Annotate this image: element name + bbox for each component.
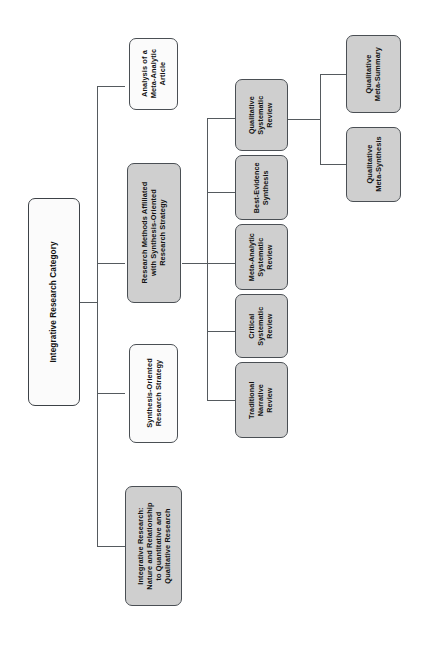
node-label-line: Research Strategy (154, 359, 163, 429)
node-label: Qualitative Meta-Summary (364, 47, 382, 101)
connector-level3-stub-5 (207, 118, 235, 119)
node-label-line: Synthesis (262, 162, 271, 213)
connector-level3-stub-4 (207, 192, 235, 193)
node-synthesis-oriented-research-strategy[interactable]: Synthesis-Oriented Research Strategy (129, 344, 178, 443)
node-label-line: Review (266, 301, 275, 352)
connector-level3-trunk (207, 118, 208, 401)
node-label-line: Review (266, 232, 275, 283)
node-label-line: Meta-Analytic (149, 49, 158, 98)
node-label-line: Synthesis-Oriented (144, 359, 153, 429)
node-label: Synthesis-Oriented Research Strategy (144, 359, 162, 429)
node-label-line: Nature and Relationship (144, 502, 153, 589)
node-label-line: to Quantitative and (154, 502, 163, 589)
node-research-methods-affiliated[interactable]: Research Methods Affiliated with Synthes… (127, 163, 181, 303)
node-label: Traditional Narrative Review (248, 375, 274, 426)
node-critical-systematic-review[interactable]: Critical Systematic Review (235, 294, 288, 358)
node-label: Integrative Research: Nature and Relatio… (135, 502, 171, 589)
node-label-line: Review (266, 90, 275, 141)
connector-level4-stub-1 (320, 164, 346, 165)
node-label-line: Research Methods Affiliated (140, 182, 149, 284)
node-integrative-research-category[interactable]: Integrative Research Category (28, 198, 80, 406)
connector-level3-feed (182, 263, 208, 264)
node-meta-analytic-systematic-review[interactable]: Meta-Analytic Systematic Review (235, 224, 288, 290)
node-qualitative-meta-summary[interactable]: Qualitative Meta-Summary (346, 35, 401, 113)
node-label: Best-Evidence Synthesis (253, 162, 271, 213)
node-label: Critical Systematic Review (248, 301, 274, 352)
connector-root-stub (80, 302, 98, 303)
node-label: Meta-Analytic Systematic Review (248, 232, 274, 283)
node-label-line: Qualitative (364, 137, 373, 193)
node-label: Analysis of a Meta-Analytic Article (140, 49, 167, 98)
node-label: Integrative Research Category (49, 241, 59, 362)
node-qualitative-systematic-review[interactable]: Qualitative Systematic Review (235, 79, 288, 151)
node-label-line: Article (158, 49, 167, 98)
node-label-line: Qualitative Research (163, 502, 172, 589)
node-label-line: Research Strategy (159, 182, 168, 284)
connector-level3-stub-3 (207, 263, 235, 264)
connector-level3-stub-1 (207, 400, 235, 401)
connector-level2-stub-2 (97, 393, 125, 394)
connector-level2-trunk (97, 86, 98, 546)
node-qualitative-meta-synthesis[interactable]: Qualitative Meta-Synthesis (346, 127, 401, 202)
diagram-canvas: Integrative Research Category Integrativ… (0, 0, 429, 653)
node-integrative-research-nature[interactable]: Integrative Research: Nature and Relatio… (125, 486, 182, 606)
node-label: Research Methods Affiliated with Synthes… (140, 182, 167, 284)
connector-level4-stub-2 (320, 74, 346, 75)
connector-level4-trunk (320, 74, 321, 165)
node-label-line: with Synthesis-Oriented (149, 182, 158, 284)
connector-level2-stub-3 (97, 263, 125, 264)
node-traditional-narrative-review[interactable]: Traditional Narrative Review (235, 362, 288, 438)
connector-level2-stub-4 (97, 86, 125, 87)
connector-level3-stub-2 (207, 331, 235, 332)
node-label: Qualitative Systematic Review (248, 90, 274, 141)
connector-level4-feed (288, 119, 321, 120)
node-label-line: Integrative Research: (135, 502, 144, 589)
node-analysis-of-meta-analytic-article[interactable]: Analysis of a Meta-Analytic Article (129, 38, 178, 110)
node-label-line: Meta-Synthesis (374, 137, 383, 193)
node-best-evidence-synthesis[interactable]: Best-Evidence Synthesis (235, 155, 288, 220)
node-label-line: Review (266, 375, 275, 426)
node-label-line: Analysis of a (140, 49, 149, 98)
connector-level2-stub-1 (97, 546, 125, 547)
node-label-line: Meta-Summary (374, 47, 383, 101)
node-label: Qualitative Meta-Synthesis (364, 137, 382, 193)
